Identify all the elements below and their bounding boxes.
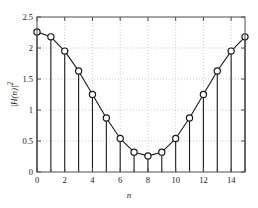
y-axis-tick-label: 2 bbox=[29, 43, 33, 53]
data-point-marker bbox=[76, 68, 82, 74]
x-axis-tick-label: 6 bbox=[118, 175, 122, 185]
x-axis-tick-label: 8 bbox=[146, 175, 150, 185]
data-point-marker bbox=[173, 135, 179, 141]
data-point-marker bbox=[62, 48, 68, 54]
x-axis-tick-label: 10 bbox=[171, 175, 180, 185]
data-point-marker bbox=[159, 149, 165, 155]
data-point-marker bbox=[145, 153, 151, 159]
plot-background bbox=[37, 17, 245, 172]
y-axis-tick-label: 1.5 bbox=[22, 74, 33, 84]
data-point-marker bbox=[214, 68, 220, 74]
x-axis-tick-label: 0 bbox=[35, 175, 39, 185]
x-axis-label: n bbox=[0, 190, 258, 200]
x-axis-tick-label: 14 bbox=[227, 175, 236, 185]
x-axis-tick-label: 2 bbox=[63, 175, 67, 185]
y-axis-tick-label: 0.5 bbox=[22, 136, 33, 146]
data-point-marker bbox=[103, 115, 109, 121]
y-axis-tick-label: 0 bbox=[29, 167, 33, 177]
figure-container: 0246810121400.511.522.5 |H(n)|2 n bbox=[0, 0, 258, 208]
y-axis-tick-label: 2.5 bbox=[22, 12, 33, 22]
x-axis-tick-label: 12 bbox=[199, 175, 208, 185]
data-point-marker bbox=[131, 149, 137, 155]
y-axis-tick-label: 1 bbox=[29, 105, 33, 115]
data-point-marker bbox=[117, 135, 123, 141]
data-point-marker bbox=[186, 115, 192, 121]
stem-plot-chart: 0246810121400.511.522.5 bbox=[0, 0, 258, 208]
data-point-marker bbox=[48, 34, 54, 40]
data-point-marker bbox=[89, 91, 95, 97]
data-point-marker bbox=[228, 48, 234, 54]
x-axis-tick-label: 4 bbox=[90, 175, 95, 185]
data-point-marker bbox=[200, 91, 206, 97]
